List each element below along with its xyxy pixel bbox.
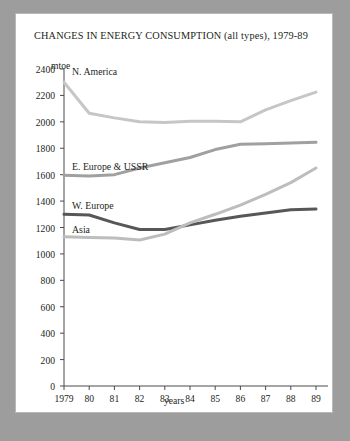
y-axis-tick-label: 1600 xyxy=(25,169,55,180)
chart-card: CHANGES IN ENERGY CONSUMPTION (all types… xyxy=(15,13,333,413)
y-axis-tick-label: 1200 xyxy=(25,222,55,233)
y-axis-tick-label: 2400 xyxy=(25,64,55,75)
series-label-n-america: N. America xyxy=(72,66,117,77)
series-line xyxy=(64,209,316,229)
y-axis-tick-label: 600 xyxy=(25,301,55,312)
series-line xyxy=(64,82,316,122)
y-axis-tick-label: 200 xyxy=(25,354,55,365)
x-axis-title: years xyxy=(16,395,332,406)
y-axis-tick-label: 1400 xyxy=(25,196,55,207)
y-axis-tick-label: 2000 xyxy=(25,116,55,127)
y-axis-tick-label: 800 xyxy=(25,275,55,286)
chart-svg xyxy=(16,14,334,414)
y-axis-tick-label: 1800 xyxy=(25,143,55,154)
series-label-asia: Asia xyxy=(72,224,90,235)
y-axis-tick-label: 0 xyxy=(25,381,55,392)
series-label-w-europe: W. Europe xyxy=(72,200,114,211)
series-label-e-europe-ussr: E. Europe & USSR xyxy=(72,161,148,172)
y-axis-tick-label: 1000 xyxy=(25,248,55,259)
y-axis-tick-label: 2200 xyxy=(25,90,55,101)
y-axis-tick-label: 400 xyxy=(25,328,55,339)
plot-area: 2400220020001800160014001200100080060040… xyxy=(16,14,334,414)
